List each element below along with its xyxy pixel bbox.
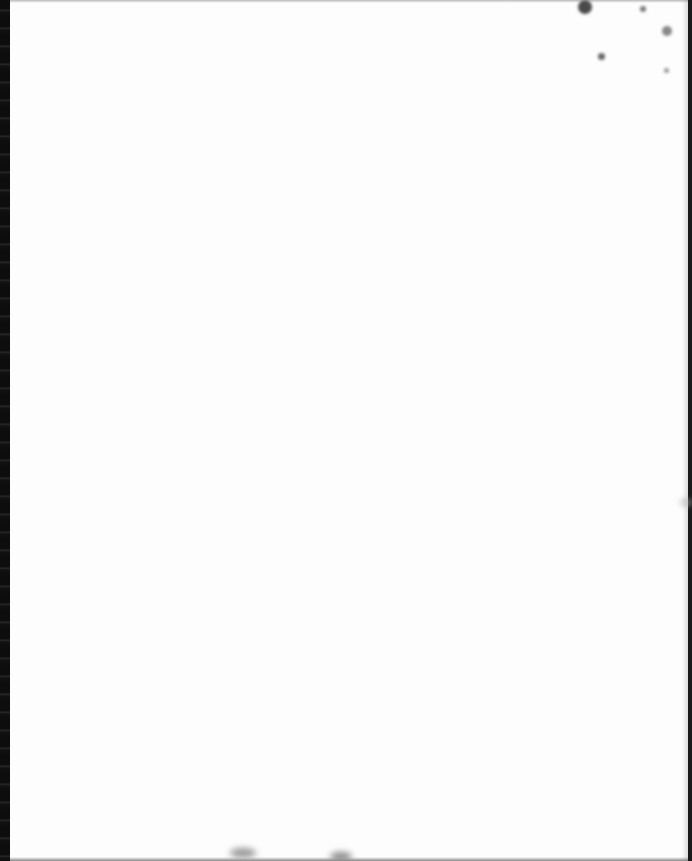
smudge-bottom-2	[330, 852, 352, 861]
speck-top-right-4	[664, 68, 669, 73]
speck-top-right-3	[662, 26, 672, 36]
speck-top-right-2	[598, 53, 605, 60]
smudge-bottom-1	[230, 848, 256, 858]
speck-top-right-1	[578, 0, 592, 14]
blank-page	[10, 0, 688, 861]
speck-top-right-5	[640, 6, 646, 12]
smudge-right-edge	[680, 500, 692, 505]
scan-shadow-right	[682, 0, 688, 861]
